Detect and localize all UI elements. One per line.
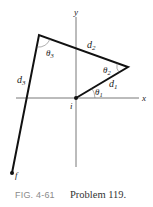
y-axis-label: y: [73, 7, 78, 17]
figure-caption: Problem 119.: [70, 189, 126, 200]
theta2-label: θ2: [103, 65, 111, 76]
theta1-label: θ1: [95, 87, 103, 98]
vector-diagram: y x i f d1 d2 d3 θ1 θ2 θ3 FIG. 4-61 Prob…: [0, 0, 153, 207]
d1-label: d1: [109, 78, 118, 91]
start-point-label: i: [70, 101, 73, 111]
d3-label: d3: [17, 74, 26, 87]
start-point: [74, 96, 78, 100]
d2-label: d2: [87, 39, 96, 52]
theta2-arc: [117, 64, 119, 73]
figure-number: FIG. 4-61: [15, 190, 55, 200]
end-point-label: f: [15, 170, 19, 180]
theta3-label: θ3: [46, 48, 54, 59]
x-axis-label: x: [141, 93, 146, 103]
end-point: [10, 171, 14, 175]
